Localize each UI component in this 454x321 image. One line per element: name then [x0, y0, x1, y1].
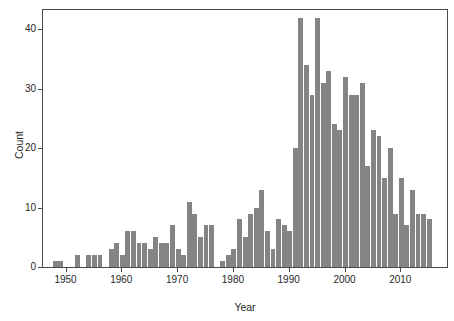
y-tick-label-0: 0: [12, 262, 36, 272]
y-tick-0: [38, 267, 42, 268]
bar-1971: [181, 255, 186, 267]
bar-1985: [259, 190, 264, 267]
x-tick-label-1990: 1990: [272, 275, 306, 285]
bar-2012: [410, 190, 415, 267]
bar-1970: [176, 249, 181, 267]
x-tick-1950: [66, 268, 67, 272]
bar-1964: [142, 243, 147, 267]
bar-1998: [332, 124, 337, 267]
x-tick-label-1960: 1960: [104, 275, 138, 285]
bar-1954: [86, 255, 91, 267]
y-tick-label-30: 30: [12, 84, 36, 94]
bar-1949: [58, 261, 63, 267]
bar-1980: [231, 249, 236, 267]
bar-1982: [243, 237, 248, 267]
bar-1968: [164, 243, 169, 267]
bar-1986: [265, 231, 270, 267]
bar-1976: [209, 225, 214, 267]
bar-1979: [226, 255, 231, 267]
bar-1965: [148, 249, 153, 267]
histogram-figure: Count Year 01020304019501960197019801990…: [0, 0, 454, 321]
bar-2015: [427, 219, 432, 267]
bar-2011: [404, 225, 409, 267]
plot-area: [42, 9, 448, 268]
bar-2001: [349, 95, 354, 267]
bar-2014: [421, 214, 426, 267]
bar-1987: [271, 249, 276, 267]
bar-1999: [337, 130, 342, 267]
x-tick-1960: [121, 268, 122, 272]
bar-2000: [343, 77, 348, 267]
bar-2004: [365, 166, 370, 267]
bar-1959: [114, 243, 119, 267]
x-tick-1970: [177, 268, 178, 272]
y-tick-label-10: 10: [12, 203, 36, 213]
y-tick-10: [38, 208, 42, 209]
x-tick-1980: [233, 268, 234, 272]
y-tick-30: [38, 89, 42, 90]
bar-1981: [237, 219, 242, 267]
bar-1955: [92, 255, 97, 267]
bar-1988: [276, 219, 281, 267]
bar-1984: [254, 208, 259, 267]
x-tick-2010: [400, 268, 401, 272]
bar-2010: [399, 178, 404, 267]
y-tick-40: [38, 29, 42, 30]
bar-1978: [220, 261, 225, 267]
bar-1975: [204, 225, 209, 267]
bar-1973: [192, 214, 197, 267]
bar-1983: [248, 214, 253, 267]
bar-2002: [354, 95, 359, 267]
bar-1974: [198, 237, 203, 267]
bar-1966: [153, 237, 158, 267]
bar-1972: [187, 202, 192, 267]
x-tick-label-1980: 1980: [216, 275, 250, 285]
y-tick-20: [38, 148, 42, 149]
bar-1948: [53, 261, 58, 267]
bar-2009: [393, 214, 398, 267]
bar-1991: [293, 148, 298, 267]
bar-1962: [131, 231, 136, 267]
bar-1992: [298, 18, 303, 267]
bar-1956: [98, 255, 103, 267]
bar-1996: [321, 83, 326, 267]
bar-1989: [282, 225, 287, 267]
bar-2006: [377, 136, 382, 267]
bar-1993: [304, 65, 309, 267]
x-tick-label-2000: 2000: [328, 275, 362, 285]
bar-2013: [416, 214, 421, 267]
bar-1995: [315, 18, 320, 267]
x-tick-2000: [345, 268, 346, 272]
bar-1967: [159, 243, 164, 267]
bar-1969: [170, 225, 175, 267]
bar-1994: [310, 95, 315, 267]
y-tick-label-40: 40: [12, 24, 36, 34]
bar-1960: [120, 255, 125, 267]
bar-2008: [388, 148, 393, 267]
x-axis-title: Year: [42, 301, 448, 313]
x-tick-label-1950: 1950: [49, 275, 83, 285]
x-tick-1990: [289, 268, 290, 272]
y-tick-label-20: 20: [12, 143, 36, 153]
bar-1958: [109, 249, 114, 267]
bar-2007: [382, 178, 387, 267]
bar-1990: [287, 231, 292, 267]
bar-1961: [125, 231, 130, 267]
bar-1963: [137, 243, 142, 267]
bar-2003: [360, 83, 365, 267]
bar-1997: [326, 71, 331, 267]
bar-1952: [75, 255, 80, 267]
x-tick-label-2010: 2010: [383, 275, 417, 285]
bar-2005: [371, 130, 376, 267]
x-tick-label-1970: 1970: [160, 275, 194, 285]
